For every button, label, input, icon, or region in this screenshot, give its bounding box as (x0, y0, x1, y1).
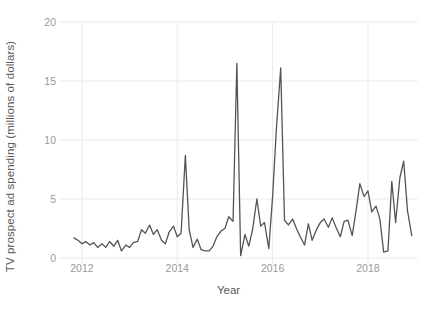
chart-container: TV prospect ad spending (millions of dol… (0, 0, 424, 313)
plot-area (0, 0, 424, 313)
line-chart-svg (0, 0, 424, 313)
data-series-line (74, 63, 412, 255)
